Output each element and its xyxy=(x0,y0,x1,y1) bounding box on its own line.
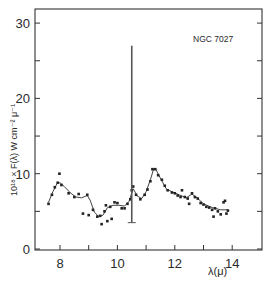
data-point xyxy=(227,209,230,212)
data-point xyxy=(135,193,138,196)
data-point xyxy=(181,189,184,192)
data-point xyxy=(186,197,189,200)
data-point xyxy=(149,180,152,183)
fitted-curve xyxy=(49,168,228,216)
data-point xyxy=(225,212,228,215)
data-point xyxy=(163,184,166,187)
data-point xyxy=(208,206,211,209)
data-point xyxy=(86,193,89,196)
data-point xyxy=(105,204,108,207)
data-point xyxy=(47,203,50,206)
data-point xyxy=(99,215,102,218)
data-point xyxy=(51,193,54,196)
data-point xyxy=(196,197,199,200)
x-tick-label: 10 xyxy=(110,256,124,271)
data-point xyxy=(92,209,95,212)
data-point xyxy=(217,210,220,213)
vertical-error-bar xyxy=(128,46,136,223)
data-point xyxy=(58,172,61,175)
data-point xyxy=(184,196,187,199)
object-label: NGC 7027 xyxy=(193,34,233,44)
y-axis-ticks: 0102030 xyxy=(16,16,262,257)
data-point xyxy=(176,194,179,197)
spectrum-chart: 8101214 0102030 NGC 7027 λ(μ) 10¹⁸ × F(λ… xyxy=(0,0,268,285)
data-point xyxy=(139,198,142,201)
data-point xyxy=(211,209,214,212)
data-point xyxy=(87,214,90,217)
data-point xyxy=(109,206,112,209)
data-point xyxy=(157,174,160,177)
data-point xyxy=(106,220,109,223)
data-point xyxy=(82,212,85,215)
data-point xyxy=(143,193,146,196)
data-point xyxy=(224,200,227,203)
data-point xyxy=(96,215,99,218)
data-point xyxy=(205,206,208,209)
y-tick-label: 30 xyxy=(16,16,30,31)
data-point xyxy=(202,203,205,206)
x-axis-label: λ(μ) xyxy=(208,265,227,277)
data-point xyxy=(212,215,215,218)
data-point xyxy=(179,196,182,199)
data-point xyxy=(67,192,70,195)
y-axis-label: 10¹⁸ × F(λ) W cm⁻² μ⁻¹ xyxy=(9,104,19,196)
data-point xyxy=(60,184,63,187)
data-point xyxy=(191,192,194,195)
data-point xyxy=(110,218,113,221)
data-point xyxy=(219,213,222,216)
data-point xyxy=(214,207,217,210)
data-point xyxy=(174,192,177,195)
data-point xyxy=(194,196,197,199)
data-point xyxy=(116,202,119,205)
plot-frame xyxy=(35,9,262,250)
data-point xyxy=(73,196,76,199)
data-point xyxy=(56,181,59,184)
data-point xyxy=(151,168,154,171)
data-point xyxy=(146,188,149,191)
y-tick-label: 0 xyxy=(23,242,30,257)
x-tick-label: 8 xyxy=(56,256,63,271)
data-point xyxy=(113,201,116,204)
data-point xyxy=(161,178,164,181)
data-point xyxy=(199,202,202,205)
data-point xyxy=(126,203,129,206)
data-point xyxy=(154,168,157,171)
data-point xyxy=(77,193,80,196)
data-point xyxy=(188,203,191,206)
data-point xyxy=(171,191,174,194)
data-point xyxy=(103,210,106,213)
data-point xyxy=(54,186,57,189)
data-point xyxy=(120,207,123,210)
data-point xyxy=(123,207,126,210)
x-tick-label: 12 xyxy=(168,256,182,271)
data-point xyxy=(166,189,169,192)
data-point xyxy=(100,223,103,226)
